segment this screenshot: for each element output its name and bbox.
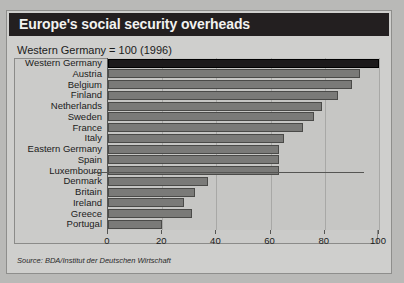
page-title: Europe's social security overheads (19, 16, 250, 32)
category-label: Portugal (67, 218, 102, 229)
bar (108, 177, 208, 186)
x-axis-tick (270, 230, 271, 234)
bar-row (108, 155, 379, 166)
category-label-column: Western GermanyAustriaBelgiumFinlandNeth… (14, 58, 106, 230)
bar-row (108, 198, 379, 209)
bar-row (108, 209, 379, 220)
category-label: Western Germany (25, 57, 102, 68)
category-label: Sweden (68, 111, 102, 122)
x-axis-tick (378, 230, 379, 234)
x-axis-tick (215, 230, 216, 234)
x-axis-tick-label: 80 (319, 235, 330, 246)
bar-row (108, 112, 379, 123)
x-axis-tick (324, 230, 325, 234)
x-axis-line (93, 172, 364, 173)
bar-row (108, 90, 379, 101)
bar (108, 220, 162, 229)
x-axis-tick-label: 40 (210, 235, 221, 246)
category-label: Italy (85, 132, 102, 143)
bar (108, 166, 279, 175)
category-label: Greece (71, 208, 102, 219)
bar (108, 69, 360, 78)
bar (108, 134, 284, 143)
bar (108, 102, 322, 111)
category-label-row: Portugal (14, 219, 106, 230)
category-label: France (72, 122, 102, 133)
x-axis-tick-label: 20 (156, 235, 167, 246)
bar (108, 145, 279, 154)
bar (108, 91, 338, 100)
bar-row (108, 58, 379, 69)
bar-row (108, 133, 379, 144)
bar (108, 198, 184, 207)
category-label: Belgium (68, 79, 102, 90)
bar (108, 112, 314, 121)
bar-row (108, 69, 379, 80)
category-label: Netherlands (51, 100, 102, 111)
bar-row (108, 123, 379, 134)
x-axis-tick-label: 0 (104, 235, 109, 246)
bar (108, 80, 352, 89)
category-label: Britain (75, 186, 102, 197)
bar-row (108, 187, 379, 198)
x-axis-tick-label: 100 (370, 235, 386, 246)
category-label: Luxembourg (49, 165, 102, 176)
x-axis-tick (161, 230, 162, 234)
bar (108, 188, 195, 197)
bar (108, 209, 192, 218)
bar-row (108, 101, 379, 112)
category-label: Austria (72, 68, 102, 79)
bar (108, 59, 379, 68)
bar-chart: Western GermanyAustriaBelgiumFinlandNeth… (14, 58, 378, 244)
bar-row (108, 166, 379, 177)
title-bar: Europe's social security overheads (9, 13, 389, 36)
x-axis-tick-label: 60 (264, 235, 275, 246)
bar-row (108, 144, 379, 155)
chart-screenshot: Europe's social security overheads Weste… (0, 0, 404, 283)
bar-row (108, 219, 379, 230)
bar (108, 155, 279, 164)
category-label: Denmark (63, 175, 102, 186)
chart-subtitle: Western Germany = 100 (1996) (17, 44, 172, 56)
gridline (379, 58, 380, 230)
category-label: Finland (71, 89, 102, 100)
category-label: Eastern Germany (28, 143, 102, 154)
bar (108, 123, 303, 132)
bar-row (108, 176, 379, 187)
bar-row (108, 80, 379, 91)
source-note: Source: BDA/Institut der Deutschen Wirts… (17, 256, 171, 265)
plot-area (107, 58, 379, 230)
x-axis-tick (107, 230, 108, 234)
category-label: Ireland (73, 197, 102, 208)
category-label: Spain (78, 154, 102, 165)
